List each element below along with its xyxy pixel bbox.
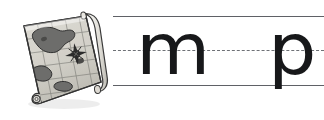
handwriting-worksheet: m p — [0, 0, 324, 120]
treasure-map-scroll-illustration — [8, 4, 113, 112]
letter-p: p — [268, 13, 316, 85]
letter-m: m — [136, 13, 210, 85]
scroll-curl-bottom-left — [32, 93, 41, 103]
